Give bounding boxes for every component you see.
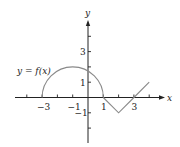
x-tick-label: 3 [132,102,138,112]
semicircle-curve [42,67,103,98]
x-axis-label: x [167,93,172,103]
y-tick-label: 3 [80,47,86,57]
x-tick-label: −3 [37,102,51,112]
x-tick-label: 1 [101,102,107,112]
x-axis-arrow-icon [159,95,165,99]
curve-label: y = f(x) [16,66,51,76]
y-tick-label: 1 [80,78,86,88]
y-axis-arrow-icon [86,20,90,26]
y-axis-label: y [84,8,91,18]
y-tick-label: −1 [75,108,88,118]
function-graph: x y −3 −1 1 3 3 1 −1 y = f(x) [0,0,180,147]
